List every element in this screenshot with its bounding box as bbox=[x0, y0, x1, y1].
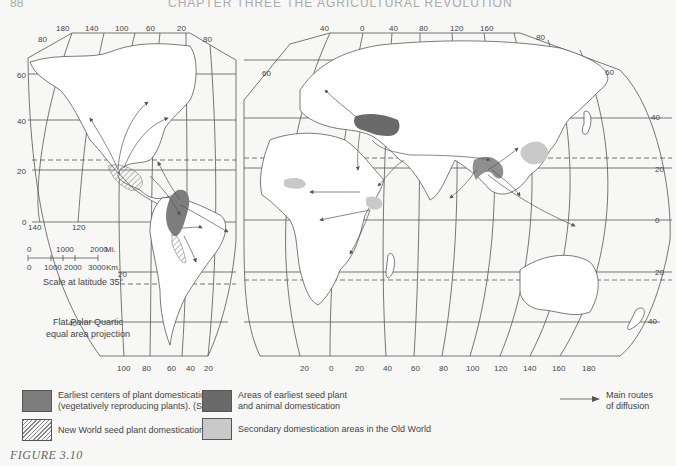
lon-label: 40 bbox=[383, 364, 392, 373]
australia bbox=[520, 255, 598, 314]
lon-label: 160 bbox=[480, 24, 494, 33]
lon-label: 40 bbox=[320, 24, 329, 33]
continents bbox=[30, 41, 644, 345]
new-world-seed-area-mexico bbox=[108, 165, 142, 191]
lon-label: 0 bbox=[329, 364, 334, 373]
lat-label: 60 bbox=[605, 68, 614, 77]
lon-label: 60 bbox=[167, 364, 176, 373]
lon-label: 140 bbox=[85, 24, 99, 33]
africa bbox=[260, 133, 384, 305]
lon-label: 160 bbox=[552, 364, 566, 373]
svg-text:1000: 1000 bbox=[56, 245, 74, 254]
svg-text:2000: 2000 bbox=[64, 263, 82, 272]
lon-label: 20 bbox=[177, 24, 186, 33]
svg-text:1000: 1000 bbox=[44, 263, 62, 272]
legend-item-routes: Main routes of diffusion bbox=[560, 390, 653, 412]
lon-label: 100 bbox=[115, 24, 129, 33]
lon-label: 40 bbox=[186, 364, 195, 373]
svg-text:0: 0 bbox=[27, 245, 32, 254]
svg-text:3000: 3000 bbox=[88, 263, 106, 272]
lon-label: 20 bbox=[355, 364, 364, 373]
lon-label: 60 bbox=[411, 364, 420, 373]
legend-item-earliest-seed-animal: Areas of earliest seed plant and animal … bbox=[202, 390, 347, 412]
lat-label: 20 bbox=[655, 165, 664, 174]
lat-label: 20 bbox=[655, 268, 664, 277]
scale-caption: Scale at latitude 35° bbox=[28, 277, 138, 287]
lat-label: 40 bbox=[648, 317, 657, 326]
lat-label: 60 bbox=[262, 69, 271, 78]
legend-item-earliest-vegetative: Earliest centers of plant domestication … bbox=[22, 390, 223, 412]
legend-item-secondary-old-world: Secondary domestication areas in the Old… bbox=[202, 418, 431, 440]
svg-text:0: 0 bbox=[27, 263, 32, 272]
lat-label: 80 bbox=[536, 33, 545, 42]
lat-label: 60 bbox=[17, 71, 26, 80]
north-america bbox=[30, 44, 200, 215]
lon-label: 20 bbox=[300, 364, 309, 373]
lon-label: 80 bbox=[419, 24, 428, 33]
legend-swatch-light-gray bbox=[202, 418, 232, 440]
legend-swatch-hatched bbox=[22, 419, 52, 441]
lon-label: 180 bbox=[582, 364, 596, 373]
japan bbox=[582, 111, 591, 134]
lon-label: 120 bbox=[450, 24, 464, 33]
lon-label: 60 bbox=[146, 24, 155, 33]
lat-label: 20 bbox=[17, 167, 26, 176]
lon-label: 40 bbox=[389, 24, 398, 33]
lat-label: 0 bbox=[655, 216, 660, 225]
arrow-right-icon bbox=[560, 394, 600, 404]
lon-label: 80 bbox=[142, 364, 151, 373]
scale-labels: 0 1000 2000 Mi. 0 1000 2000 3000 Km. bbox=[27, 245, 120, 272]
projection-label: Flat Polar Quartic equal area projection bbox=[28, 316, 148, 340]
lat-label: 80 bbox=[38, 35, 47, 44]
lat-label: 80 bbox=[203, 35, 212, 44]
svg-text:Mi.: Mi. bbox=[105, 245, 116, 254]
lat-label: 0 bbox=[22, 218, 27, 227]
lon-label: 100 bbox=[466, 364, 480, 373]
figure-caption: FIGURE 3.10 bbox=[10, 448, 83, 463]
lon-label: 140 bbox=[523, 364, 537, 373]
lon-label: 180 bbox=[56, 24, 70, 33]
lon-label: 100 bbox=[117, 364, 131, 373]
legend-item-new-world-seed: New World seed plant domestication areas bbox=[22, 419, 229, 441]
lon-label: 140 bbox=[28, 223, 42, 232]
lon-label: 120 bbox=[494, 364, 508, 373]
new-zealand bbox=[628, 308, 645, 330]
madagascar bbox=[386, 253, 395, 277]
lon-label: 20 bbox=[204, 364, 213, 373]
lon-label: 120 bbox=[72, 223, 86, 232]
scale-bar bbox=[28, 255, 98, 261]
legend-swatch-medium-gray bbox=[22, 390, 52, 412]
lat-label: 40 bbox=[651, 113, 660, 122]
lon-label: 0 bbox=[360, 24, 365, 33]
legend-swatch-dark-gray bbox=[202, 390, 232, 412]
lat-label: 40 bbox=[17, 117, 26, 126]
svg-text:Km.: Km. bbox=[106, 263, 120, 272]
lon-label: 80 bbox=[439, 364, 448, 373]
